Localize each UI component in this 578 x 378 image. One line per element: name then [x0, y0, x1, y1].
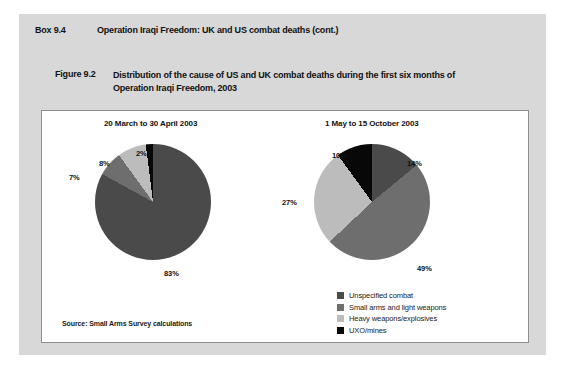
- legend-swatch-icon-uxo-mines: [337, 327, 344, 334]
- box-number: Box 9.4: [35, 25, 97, 35]
- legend-label-unspecified-combat: Unspecified combat: [349, 291, 413, 300]
- source-note: Source: Small Arms Survey calculations: [62, 320, 192, 327]
- legend-swatch-icon-heavy-weapons: [337, 315, 344, 322]
- pie-label-right-small-arms: 49%: [417, 264, 432, 273]
- figure-title: Distribution of the cause of US and UK c…: [113, 69, 493, 94]
- legend-item-uxo-mines: UXO/mines: [337, 325, 446, 336]
- legend-item-heavy-weapons: Heavy weapons/explosives: [337, 313, 446, 324]
- pie-label-right-uxo-mines: 10%: [332, 151, 347, 160]
- chart-panel: 20 March to 30 April 2003 1 May to 15 Oc…: [41, 110, 529, 343]
- legend-swatch-icon-unspecified-combat: [337, 292, 344, 299]
- legend-item-unspecified-combat: Unspecified combat: [337, 290, 446, 301]
- pie-label-left-heavy-weapons: 8%: [99, 159, 110, 168]
- pie-label-left-uxo-mines: 2%: [136, 149, 147, 158]
- pie-label-left-small-arms: 7%: [69, 173, 80, 182]
- box-title: Operation Iraqi Freedom: UK and US comba…: [97, 25, 338, 35]
- figure-number: Figure 9.2: [55, 69, 113, 79]
- legend-swatch-icon-small-arms: [337, 304, 344, 311]
- box-header: Box 9.4 Operation Iraqi Freedom: UK and …: [35, 25, 338, 35]
- chart-subtitle-left: 20 March to 30 April 2003: [104, 119, 197, 128]
- legend-label-uxo-mines: UXO/mines: [349, 326, 386, 335]
- figure-header: Figure 9.2 Distribution of the cause of …: [55, 69, 493, 94]
- legend-label-small-arms: Small arms and light weapons: [349, 303, 446, 312]
- pie-label-right-heavy-weapons: 27%: [282, 198, 297, 207]
- pie-label-left-unspecified-combat: 83%: [164, 269, 179, 278]
- chart-subtitle-right: 1 May to 15 October 2003: [325, 119, 419, 128]
- legend-item-small-arms: Small arms and light weapons: [337, 302, 446, 313]
- pie-chart-march-april: [95, 144, 211, 260]
- pie-label-right-unspecified-combat: 14%: [407, 159, 422, 168]
- chart-legend: Unspecified combat Small arms and light …: [337, 290, 446, 336]
- legend-label-heavy-weapons: Heavy weapons/explosives: [349, 314, 437, 323]
